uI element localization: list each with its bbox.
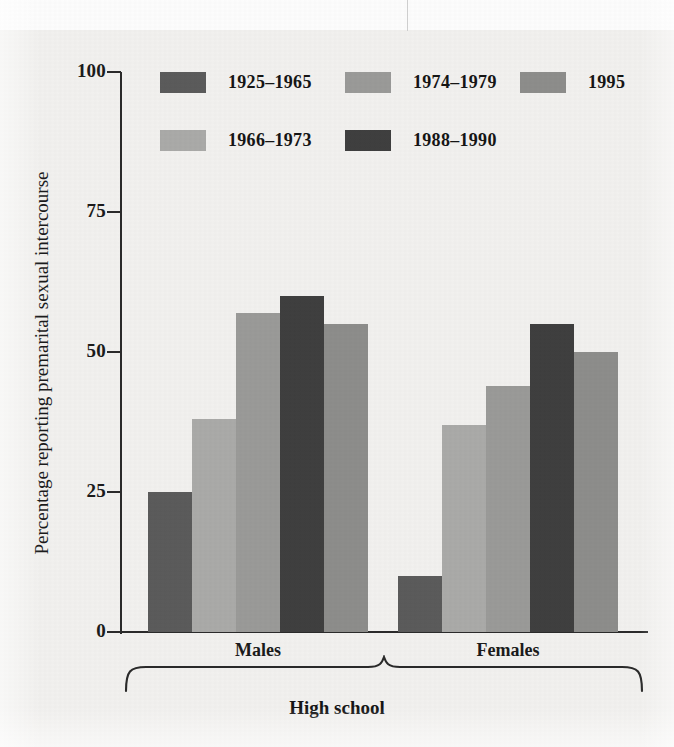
legend-swatch-icon	[345, 130, 391, 151]
chart-legend: 1925–19651974–197919951966–19731988–1990	[160, 72, 630, 164]
y-tick-label: 25	[60, 480, 106, 502]
brace-icon	[120, 655, 648, 695]
legend-swatch-icon	[520, 72, 566, 93]
legend-swatch-icon	[345, 72, 391, 93]
y-tick-mark	[107, 351, 121, 353]
y-axis-line	[120, 72, 122, 634]
legend-label: 1966–1973	[228, 130, 312, 151]
legend-item: 1974–1979	[345, 72, 497, 93]
bar-females-1988-1990	[530, 324, 574, 632]
legend-label: 1995	[588, 72, 625, 93]
y-axis-title: Percentage reporting premarital sexual i…	[31, 153, 53, 573]
legend-swatch-icon	[160, 130, 206, 151]
legend-item: 1925–1965	[160, 72, 312, 93]
group-bracket	[120, 655, 648, 695]
bar-males-1988-1990	[280, 296, 324, 632]
legend-swatch-icon	[160, 72, 206, 93]
legend-item: 1995	[520, 72, 625, 93]
y-tick-mark	[107, 211, 121, 213]
legend-label: 1925–1965	[228, 72, 312, 93]
legend-label: 1974–1979	[413, 72, 497, 93]
bar-males-1966-1973	[192, 419, 236, 632]
bar-chart-plot: 1007550250 Percentage reporting premarit…	[0, 0, 674, 747]
bracket-label: High school	[0, 697, 674, 719]
y-tick-label: 0	[60, 620, 106, 642]
bar-males-1974-1979	[236, 313, 280, 632]
legend-item: 1966–1973	[160, 130, 312, 151]
legend-item: 1988–1990	[345, 130, 497, 151]
y-tick-mark	[107, 71, 121, 73]
y-tick-label: 50	[60, 340, 106, 362]
y-tick-mark	[107, 491, 121, 493]
scanned-figure-page: 1007550250 Percentage reporting premarit…	[0, 0, 674, 747]
bar-females-1925-1965	[398, 576, 442, 632]
bar-females-1966-1973	[442, 425, 486, 632]
bar-females-1974-1979	[486, 386, 530, 632]
bar-females-1995	[574, 352, 618, 632]
bar-males-1995	[324, 324, 368, 632]
legend-label: 1988–1990	[413, 130, 497, 151]
y-tick-label: 100	[60, 60, 106, 82]
y-tick-label: 75	[60, 200, 106, 222]
y-tick-mark	[107, 631, 121, 633]
bar-males-1925-1965	[148, 492, 192, 632]
